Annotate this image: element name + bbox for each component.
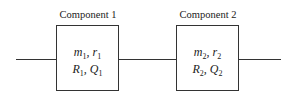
middle-wire xyxy=(119,59,177,60)
component-1-line2: R1, Q1 xyxy=(57,63,118,80)
component-2-box: m2, r2 R2, Q2 xyxy=(176,25,239,91)
component-2-line1: m2, r2 xyxy=(177,46,238,63)
component-1-box: m1, r1 R1, Q1 xyxy=(56,25,119,91)
component-1-label: Component 1 xyxy=(38,9,138,20)
input-wire xyxy=(16,59,56,60)
component-1-line1: m1, r1 xyxy=(57,46,118,63)
component-2-label: Component 2 xyxy=(158,9,258,20)
component-1-params: m1, r1 R1, Q1 xyxy=(57,46,118,81)
output-wire xyxy=(239,59,281,60)
component-2-line2: R2, Q2 xyxy=(177,63,238,80)
component-2-params: m2, r2 R2, Q2 xyxy=(177,46,238,81)
